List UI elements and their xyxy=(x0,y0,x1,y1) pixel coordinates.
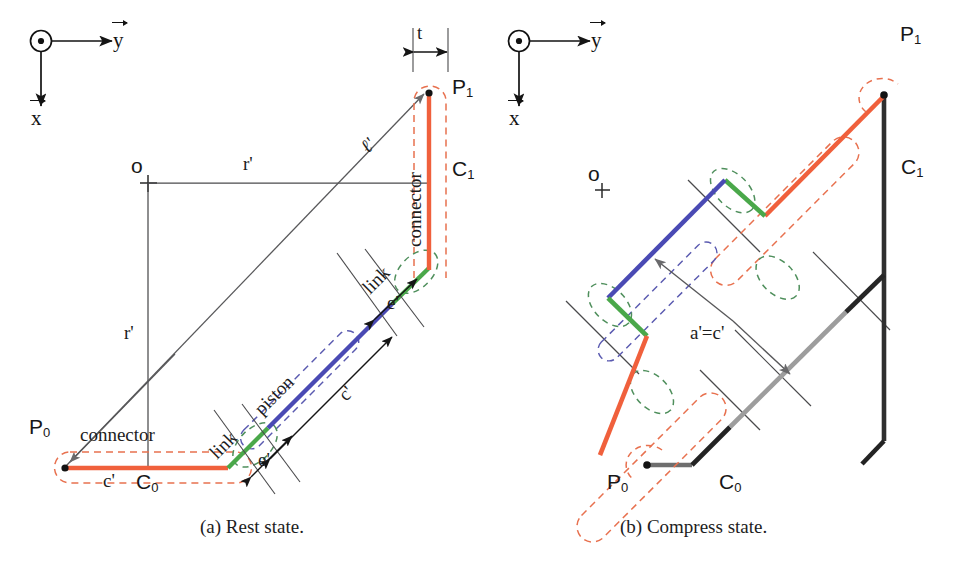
dimension-label-r-vertical: r' xyxy=(124,322,134,344)
point-label-C0-a: C0 xyxy=(136,470,158,495)
joint-P1-a xyxy=(425,89,432,96)
member-connector-lower2-b xyxy=(599,336,648,455)
envelope-link-mid-b xyxy=(748,248,807,307)
point-label-P1-b: P1 xyxy=(900,22,921,47)
member-link-upper-b xyxy=(725,180,765,216)
dimension-label-c-bottom: c' xyxy=(103,470,115,492)
dimension-label-a-equals-c: a'=c' xyxy=(690,322,724,344)
dimension-label-t: t xyxy=(417,22,422,44)
dimension-witness-lines-a xyxy=(214,249,424,494)
member-piston-b xyxy=(608,180,725,298)
member-C1-bend-b xyxy=(862,441,884,464)
member-piston xyxy=(268,304,392,428)
point-label-C1-b: C1 xyxy=(901,155,923,180)
envelope-P1-cap-b xyxy=(859,78,898,112)
dimension-label-e-upper: e' xyxy=(387,292,399,314)
origin-label-a: o xyxy=(131,154,143,178)
joint-P1-b xyxy=(880,91,888,99)
dimension-a-equals-c-arrow-lower xyxy=(733,321,790,374)
dimension-label-r-horizontal: r' xyxy=(243,153,253,175)
axes-a-glyph xyxy=(31,31,113,107)
dimension-c-piston-arrow xyxy=(270,337,392,459)
point-label-C0-b: C0 xyxy=(719,470,741,495)
point-label-P0-a: P0 xyxy=(29,415,50,440)
axes-b-y-label: y xyxy=(591,28,602,53)
figure-canvas: y x o P1 C1 P0 C0 t r' r' ℓ' c' c' e' e'… xyxy=(0,0,956,565)
member-C0-bend-b xyxy=(692,427,730,465)
part-label-connector-bottom: connector xyxy=(80,424,155,446)
caption-a: (a) Rest state. xyxy=(200,516,304,538)
envelope-connector-upper-b xyxy=(704,131,865,292)
member-frame-diagonal-b xyxy=(730,312,846,427)
origin-label-b: o xyxy=(588,162,600,186)
axes-a-y-label: y xyxy=(113,28,124,53)
part-label-connector-right: connector xyxy=(404,172,426,247)
axes-b-glyph xyxy=(509,31,591,107)
dimension-a-equals-c-arrow-upper xyxy=(655,259,733,321)
joint-P0-b xyxy=(643,461,651,469)
member-frame-diagonal-dark-b xyxy=(846,275,884,312)
point-label-P0-b: P0 xyxy=(607,470,628,495)
dimension-label-e-lower: e' xyxy=(258,449,270,471)
point-label-P1-a: P1 xyxy=(452,75,473,100)
joint-P0-a xyxy=(61,464,68,471)
member-connector-upper-b xyxy=(765,96,884,216)
caption-b: (b) Compress state. xyxy=(620,516,767,538)
envelope-link-lowermid-b xyxy=(580,275,639,334)
axes-a-x-label: x xyxy=(31,106,42,131)
axes-b-x-label: x xyxy=(509,106,520,131)
point-label-C1-a: C1 xyxy=(452,157,474,182)
